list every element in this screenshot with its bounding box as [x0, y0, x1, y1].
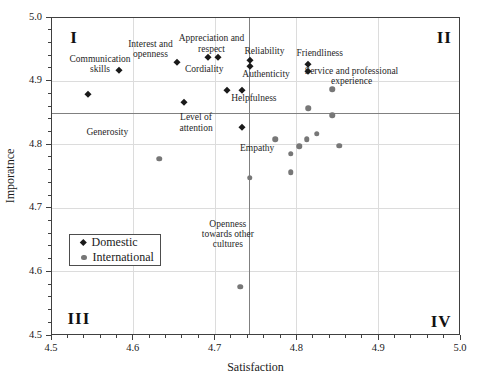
annotation-label: Level ofattention [179, 112, 212, 133]
y-tick-label: 5.0 [16, 11, 42, 22]
scatter-chart: CommunicationskillsInterest andopennessA… [0, 0, 481, 383]
data-point-international [288, 169, 294, 175]
legend-item-international: International [81, 251, 160, 264]
y-minor-tick [48, 195, 51, 196]
gridline-vertical [296, 18, 297, 334]
annotation-line: Service and professional [305, 65, 398, 75]
y-minor-tick [48, 29, 51, 30]
annotation-line: Authenticity [242, 69, 290, 79]
annotation-line: towards other [202, 228, 254, 238]
y-minor-tick [48, 118, 51, 119]
y-minor-tick [48, 296, 51, 297]
x-minor-tick [100, 335, 101, 338]
data-point-international [247, 175, 253, 181]
y-minor-tick [48, 169, 51, 170]
annotation-line: Empathy [240, 142, 274, 152]
y-minor-tick [48, 182, 51, 183]
x-minor-tick [247, 335, 248, 338]
annotation-label: Helpfulness [231, 93, 276, 103]
legend-label-international: International [93, 251, 154, 264]
x-major-tick [378, 335, 379, 340]
quadrant-label-ii: II [437, 28, 452, 48]
annotation-label: Authenticity [242, 69, 290, 79]
annotation-label: Reliability [244, 46, 284, 56]
annotation-line: Level of [179, 112, 212, 122]
y-minor-tick [48, 55, 51, 56]
gridline-horizontal [52, 208, 459, 209]
data-point-international [329, 87, 335, 93]
y-axis-title: Imporatnce [3, 149, 18, 204]
data-point-international [337, 143, 343, 149]
data-point-international [314, 131, 320, 137]
annotation-line: Helpfulness [231, 93, 276, 103]
x-axis-title: Satisfaction [51, 360, 460, 375]
x-minor-tick [410, 335, 411, 338]
y-tick-label: 4.5 [16, 329, 42, 340]
x-minor-tick [181, 335, 182, 338]
x-major-tick [214, 335, 215, 340]
y-minor-tick [48, 131, 51, 132]
annotation-label: Friendliness [297, 48, 343, 58]
data-point-international [272, 137, 278, 143]
annotation-label: Cordiality [185, 63, 224, 73]
y-tick-label: 4.9 [16, 74, 42, 85]
quadrant-label-i: I [70, 28, 78, 48]
y-major-tick [46, 271, 51, 272]
y-tick-label: 4.7 [16, 201, 42, 212]
annotation-line: Cordiality [185, 63, 224, 73]
data-point-international [288, 151, 294, 157]
x-minor-tick [83, 335, 84, 338]
x-minor-tick [394, 335, 395, 338]
data-point-domestic [181, 99, 187, 105]
annotation-line: Reliability [244, 46, 284, 56]
data-point-international [329, 113, 335, 119]
annotation-label: Appreciation andrespect [179, 33, 245, 54]
gridline-horizontal [52, 271, 459, 272]
annotation-line: cultures [202, 239, 254, 249]
x-minor-tick [345, 335, 346, 338]
y-minor-tick [48, 258, 51, 259]
legend-label-domestic: Domestic [92, 236, 138, 249]
y-minor-tick [48, 220, 51, 221]
x-minor-tick [280, 335, 281, 338]
plot-area: CommunicationskillsInterest andopennessA… [51, 17, 460, 335]
x-tick-label: 4.5 [44, 342, 57, 353]
x-minor-tick [329, 335, 330, 338]
data-point-international [306, 106, 312, 112]
quadrant-label-iii: III [67, 309, 90, 329]
y-minor-tick [48, 42, 51, 43]
annotation-label: Service and professionalexperience [305, 65, 398, 86]
legend-item-domestic: Domestic [81, 236, 160, 249]
quadrant-label-iv: IV [431, 312, 452, 332]
y-major-tick [46, 207, 51, 208]
annotation-label: Communicationskills [69, 53, 130, 74]
x-minor-tick [427, 335, 428, 338]
y-minor-tick [48, 67, 51, 68]
x-minor-tick [198, 335, 199, 338]
y-tick-label: 4.6 [16, 265, 42, 276]
annotation-line: Friendliness [297, 48, 343, 58]
data-point-domestic [174, 59, 180, 65]
y-minor-tick [48, 156, 51, 157]
data-point-domestic [85, 91, 91, 97]
legend: Domestic International [69, 234, 161, 266]
y-minor-tick [48, 233, 51, 234]
y-minor-tick [48, 106, 51, 107]
x-minor-tick [361, 335, 362, 338]
x-tick-label: 4.6 [126, 342, 139, 353]
x-major-tick [51, 335, 52, 340]
data-point-international [237, 284, 243, 290]
y-minor-tick [48, 284, 51, 285]
data-point-international [304, 137, 310, 143]
international-circle-icon [81, 255, 87, 261]
x-tick-label: 4.9 [372, 342, 385, 353]
x-minor-tick [149, 335, 150, 338]
annotation-line: Generosity [87, 127, 129, 137]
crosshair-horizontal-line [52, 113, 459, 114]
annotation-label: Generosity [87, 127, 129, 137]
y-minor-tick [48, 245, 51, 246]
gridline-vertical [133, 18, 134, 334]
x-tick-label: 5.0 [453, 342, 466, 353]
x-minor-tick [230, 335, 231, 338]
annotation-line: Appreciation and [179, 33, 245, 43]
